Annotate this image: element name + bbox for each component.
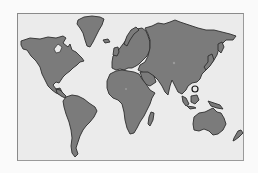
region-great-britain bbox=[113, 47, 119, 56]
marker-dot-central-asia bbox=[173, 62, 175, 64]
region-australia bbox=[193, 108, 226, 135]
region-borneo bbox=[191, 95, 199, 104]
world-map bbox=[0, 0, 258, 173]
region-java bbox=[187, 106, 196, 109]
region-iceland bbox=[103, 39, 110, 43]
region-kamchatka bbox=[218, 42, 224, 53]
region-indonesia bbox=[182, 96, 189, 106]
region-madagascar bbox=[148, 112, 154, 126]
region-north-america bbox=[21, 36, 84, 95]
region-new-zealand bbox=[233, 130, 243, 141]
region-new-guinea bbox=[208, 101, 223, 109]
region-greenland bbox=[77, 16, 104, 47]
marker-dot-africa bbox=[125, 88, 127, 90]
region-south-america bbox=[63, 95, 97, 157]
marker-ring-southeast-asia bbox=[192, 86, 198, 92]
